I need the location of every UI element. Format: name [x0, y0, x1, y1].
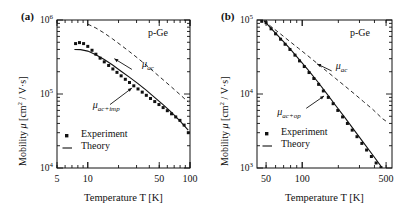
- data-point: [111, 67, 114, 70]
- y-tick-exponent: 3: [250, 161, 254, 169]
- y-axis-label-units: [cm: [219, 105, 230, 121]
- y-tick-mantissa: 10: [240, 163, 250, 173]
- data-point: [260, 20, 263, 23]
- data-point: [153, 100, 156, 103]
- plot-frame: [257, 20, 392, 168]
- data-point: [107, 64, 110, 67]
- data-point: [120, 74, 123, 77]
- x-tick-label: 100: [282, 173, 322, 184]
- y-tick-exponent: 4: [50, 161, 54, 169]
- y-tick-exponent: 6: [50, 13, 54, 21]
- data-point: [149, 97, 152, 100]
- data-point: [82, 42, 85, 45]
- annotation-mu-ac-subscript: ac: [147, 64, 154, 72]
- annotation-mu-ac-subscript: ac: [341, 66, 348, 74]
- annotation-mu-ac: μac: [142, 58, 154, 72]
- plot-area-b: [202, 0, 405, 224]
- annotation-mu-ac-imp: μac+imp: [93, 99, 120, 113]
- legend-marker-experiment: [65, 134, 68, 137]
- legend-label-experiment: Experiment: [281, 126, 328, 137]
- y-tick-mantissa: 10: [240, 15, 250, 25]
- y-tick-mantissa: 10: [240, 89, 250, 99]
- annotation-mu-ac: μac: [336, 60, 348, 74]
- data-point: [78, 41, 81, 44]
- x-tick-label: 500: [366, 173, 405, 184]
- annotation-mu-ac-imp-subscript: ac+imp: [98, 105, 120, 113]
- data-point: [132, 84, 135, 87]
- y-axis-label-units: [cm: [17, 105, 28, 121]
- annotation-mu-ac-op-subscript: ac+op: [282, 112, 300, 120]
- y-tick-label: 104: [15, 161, 53, 173]
- y-tick-mantissa: 10: [40, 15, 50, 25]
- data-point: [124, 78, 127, 81]
- y-tick-label: 106: [15, 13, 53, 25]
- y-tick-exponent: 5: [250, 13, 254, 21]
- y-tick-label: 104: [215, 87, 253, 99]
- series-group: [260, 20, 388, 169]
- data-point: [162, 106, 165, 109]
- data-point: [187, 131, 190, 134]
- y-tick-mantissa: 10: [40, 89, 50, 99]
- y-tick-exponent: 5: [50, 87, 54, 95]
- x-axis-label: Temperature T [K]: [37, 192, 210, 203]
- data-point: [145, 94, 148, 97]
- data-point: [74, 42, 77, 45]
- legend-label-theory: Theory: [281, 138, 310, 149]
- y-tick-label: 103: [215, 161, 253, 173]
- y-axis-label-units-exponent: 2: [218, 102, 226, 106]
- y-axis-label-mu: μ: [219, 123, 230, 128]
- y-axis-label-units-exponent: 2: [16, 102, 24, 106]
- annotation-mu-ac-op: μac+op: [277, 106, 300, 120]
- data-point: [91, 49, 94, 52]
- panel-b: (b)Mobility μ [cm2 / V·s]Temperature T […: [202, 0, 405, 224]
- legend-label-theory: Theory: [81, 140, 110, 151]
- arrow-mu-mix-head: [320, 96, 324, 100]
- x-tick-label: 50: [246, 173, 286, 184]
- material-label: p-Ge: [148, 27, 168, 38]
- y-axis-label-mu: μ: [17, 123, 28, 128]
- x-axis-label: Temperature T [K]: [237, 192, 405, 203]
- y-tick-label: 105: [15, 87, 53, 99]
- legend-label-experiment: Experiment: [81, 128, 128, 139]
- data-point: [115, 71, 118, 74]
- x-tick-label: 10: [68, 173, 108, 184]
- legend-marker-experiment: [265, 132, 268, 135]
- data-point: [157, 103, 160, 106]
- y-tick-mantissa: 10: [40, 163, 50, 173]
- series-group: [74, 24, 190, 134]
- material-label: p-Ge: [350, 27, 370, 38]
- data-point: [137, 87, 140, 90]
- data-point: [128, 81, 131, 84]
- y-tick-label: 105: [215, 13, 253, 25]
- panel-a: (a)Mobility μ [cm2 / V·s]Temperature T […: [0, 0, 203, 224]
- y-tick-exponent: 4: [250, 87, 254, 95]
- data-point: [86, 45, 89, 48]
- figure-root: (a)Mobility μ [cm2 / V·s]Temperature T […: [0, 0, 405, 224]
- curve-theory: [74, 49, 188, 130]
- data-point: [141, 91, 144, 94]
